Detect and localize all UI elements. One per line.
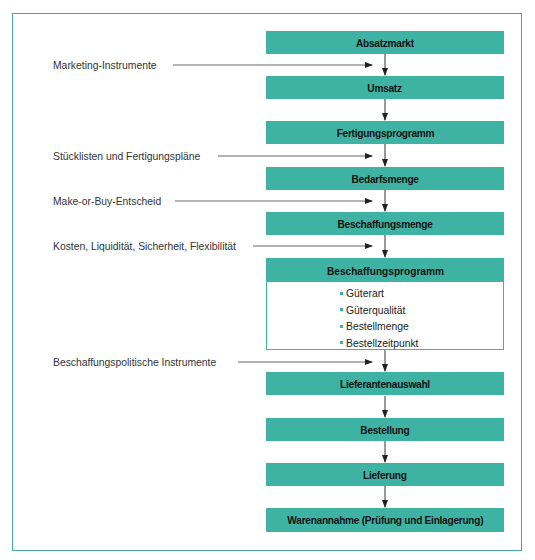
influence-label-marketing: Marketing-Instrumente xyxy=(53,58,157,72)
bullet-icon xyxy=(340,308,343,311)
flow-step-beschaffungsprogramm: Beschaffungsprogramm Güterart Güterquali… xyxy=(266,258,504,350)
flow-step-lieferantenauswahl: Lieferantenauswahl xyxy=(266,372,504,395)
flow-step-warenannahme: Warenannahme (Prüfung und Einlagerung) xyxy=(266,508,504,532)
influence-label-stuecklisten: Stücklisten und Fertigungspläne xyxy=(53,149,200,163)
influence-label-kosten: Kosten, Liquidität, Sicherheit, Flexibil… xyxy=(53,239,236,253)
beschaffungsprogramm-items: Güterart Güterqualität Bestellmenge Best… xyxy=(267,282,503,351)
bullet-icon xyxy=(340,341,343,344)
flow-step-bedarfsmenge: Bedarfsmenge xyxy=(266,167,504,190)
flow-step-beschaffungsmenge: Beschaffungsmenge xyxy=(266,212,504,235)
flow-step-fertigungsprogramm: Fertigungsprogramm xyxy=(266,121,504,144)
flow-step-umsatz: Umsatz xyxy=(266,76,504,99)
list-item: Güterqualität xyxy=(340,302,503,319)
flow-step-absatzmarkt: Absatzmarkt xyxy=(266,31,504,54)
flow-step-lieferung: Lieferung xyxy=(266,463,504,486)
bullet-icon xyxy=(340,292,343,295)
list-item: Bestellzeitpunkt xyxy=(340,335,503,352)
bullet-icon xyxy=(340,325,343,328)
influence-label-make-or-buy: Make-or-Buy-Entscheid xyxy=(53,194,161,208)
influence-label-beschaffungspolitik: Beschaffungspolitische Instrumente xyxy=(53,355,216,369)
list-item: Bestellmenge xyxy=(340,318,503,335)
list-item: Güterart xyxy=(340,285,503,302)
flow-step-bestellung: Bestellung xyxy=(266,418,504,441)
beschaffungsprogramm-header: Beschaffungsprogramm xyxy=(267,259,503,282)
